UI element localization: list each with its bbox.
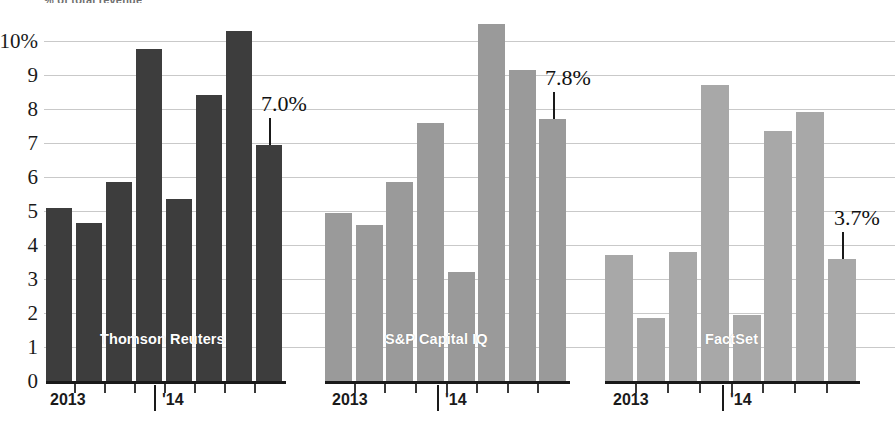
bar <box>356 225 383 381</box>
plot-area: 012345678910% Thomson Reuters7.0%S&P Cap… <box>0 0 895 438</box>
bar <box>166 199 192 381</box>
panel-caption: FactSet <box>705 331 758 347</box>
y-axis-tick-label-6: 6 <box>28 167 39 188</box>
x-axis-tick <box>194 384 196 393</box>
x-axis-tick <box>104 384 106 393</box>
bar <box>605 255 633 381</box>
y-axis-tick-label-3: 3 <box>28 269 39 290</box>
bar <box>325 213 352 381</box>
bar <box>256 145 282 381</box>
x-axis-tick <box>134 384 136 393</box>
y-axis-tick-label-4: 4 <box>28 235 39 256</box>
x-axis-tick <box>667 384 669 393</box>
bar <box>226 31 252 381</box>
y-axis-tick-label-5: 5 <box>28 201 39 222</box>
x-axis-tick <box>826 384 828 393</box>
year-divider-marker <box>154 385 156 411</box>
x-axis-tick <box>507 384 509 393</box>
x-axis-year-label-2013: 2013 <box>50 391 86 409</box>
y-axis-tick-label-2: 2 <box>28 303 39 324</box>
bar <box>733 315 761 381</box>
y-axis-tick-label-0: 0 <box>28 371 39 392</box>
bar <box>539 119 566 381</box>
y-axis-labels: 012345678910% <box>0 0 44 438</box>
callout-value-label: 7.8% <box>545 67 591 89</box>
x-axis-year-label-14: '14 <box>162 391 184 409</box>
bar <box>478 24 505 381</box>
x-axis-tick <box>537 384 539 393</box>
bar <box>76 223 102 381</box>
bar <box>828 259 856 381</box>
x-axis-year-label-2013: 2013 <box>613 391 649 409</box>
panel-caption: S&P Capital IQ <box>385 331 488 347</box>
x-axis-tick <box>254 384 256 393</box>
x-axis-tick <box>415 384 417 393</box>
y-axis-tick-label-1: 1 <box>28 337 39 358</box>
x-axis-year-label-14: '14 <box>445 391 467 409</box>
bar <box>386 182 413 381</box>
x-axis-tick <box>476 384 478 393</box>
callout-leader-line <box>553 92 555 119</box>
chart-panel-s-p-capital-iq: S&P Capital IQ7.8% <box>325 0 570 438</box>
callout-leader-line <box>269 118 271 145</box>
y-axis-tick-label-8: 8 <box>28 99 39 120</box>
callout-value-label: 3.7% <box>834 207 880 229</box>
x-axis-tick <box>224 384 226 393</box>
bar <box>106 182 132 381</box>
bar <box>669 252 697 381</box>
y-axis-tick-label-10: 10% <box>0 31 38 52</box>
chart-panel-factset: FactSet3.7% <box>605 0 860 438</box>
bar <box>46 208 72 381</box>
callout-value-label: 7.0% <box>261 93 307 115</box>
x-axis-tick <box>762 384 764 393</box>
x-axis-tick <box>699 384 701 393</box>
bar <box>448 272 475 381</box>
panel-caption: Thomson Reuters <box>100 331 225 347</box>
year-divider-marker <box>437 385 439 411</box>
callout-leader-line <box>842 232 844 259</box>
x-axis-tick <box>794 384 796 393</box>
x-axis-tick <box>384 384 386 393</box>
x-axis-year-label-14: '14 <box>730 391 752 409</box>
y-axis-tick-label-9: 9 <box>28 65 39 86</box>
bar <box>796 112 824 381</box>
y-axis-tick-label-7: 7 <box>28 133 39 154</box>
x-axis-year-label-2013: 2013 <box>332 391 368 409</box>
bar <box>764 131 792 381</box>
year-divider-marker <box>722 385 724 411</box>
x-axis-line <box>46 381 286 384</box>
bar <box>637 318 665 381</box>
chart-figure: % of total revenue 012345678910% Thomson… <box>0 0 895 438</box>
chart-panel-thomson-reuters: Thomson Reuters7.0% <box>46 0 286 438</box>
bar <box>509 70 536 381</box>
